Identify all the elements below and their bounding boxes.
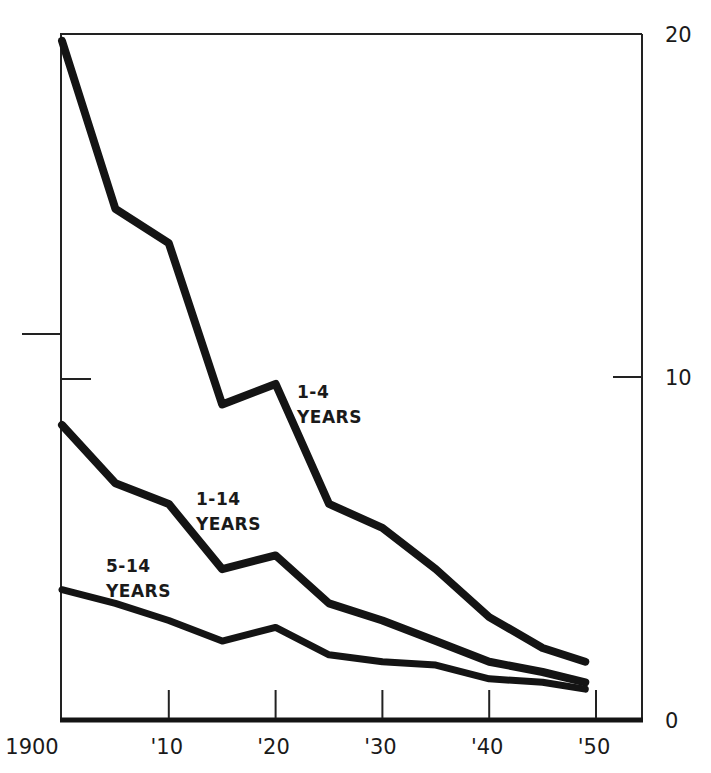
right-axis-ticks: 01020 <box>613 23 692 733</box>
x-tick-label: 1900 <box>5 735 58 759</box>
y-tick-label: 10 <box>665 366 692 390</box>
left-axis-ticks <box>22 334 91 379</box>
x-tick-label: '40 <box>471 735 504 759</box>
series-label-1-14-line2: YEARS <box>195 514 261 534</box>
series-label-1-4-line2: YEARS <box>296 407 362 427</box>
x-tick-label: '50 <box>578 735 611 759</box>
x-tick-label: '20 <box>257 735 290 759</box>
series-line-1-14 <box>62 425 585 682</box>
x-tick-label: '10 <box>151 735 184 759</box>
y-tick-label: 0 <box>665 709 678 733</box>
series-label-1-14-line1: 1-14 <box>196 489 241 509</box>
x-axis-ticks: 1900'10'20'30'40'50 <box>5 690 610 759</box>
x-tick-label: '30 <box>364 735 397 759</box>
series-label-5-14-line2: YEARS <box>105 581 171 601</box>
series-label-5-14-line1: 5-14 <box>106 556 151 576</box>
y-tick-label: 20 <box>665 23 692 47</box>
series-label-1-4-line1: 1-4 <box>297 382 329 402</box>
mortality-line-chart: 01020 1900'10'20'30'40'50 1-4 YEARS 1-14… <box>0 0 711 773</box>
series-line-5-14 <box>62 590 585 689</box>
